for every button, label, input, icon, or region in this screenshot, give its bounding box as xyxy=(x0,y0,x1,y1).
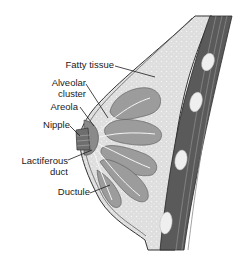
label-lactiferous-line1: Lactiferous xyxy=(10,155,68,166)
label-fatty-tissue: Fatty tissue xyxy=(52,59,114,70)
label-lactiferous-line2: duct xyxy=(10,166,68,177)
label-alveolar-cluster: Alveolar cluster xyxy=(36,77,86,99)
label-areola: Areola xyxy=(36,101,78,112)
label-ductule: Ductule xyxy=(46,186,90,197)
label-alveolar-line1: Alveolar xyxy=(36,77,86,88)
label-lactiferous-duct: Lactiferous duct xyxy=(10,155,68,177)
label-nipple: Nipple xyxy=(30,119,70,130)
nipple xyxy=(76,128,90,150)
label-alveolar-line2: cluster xyxy=(36,88,86,99)
